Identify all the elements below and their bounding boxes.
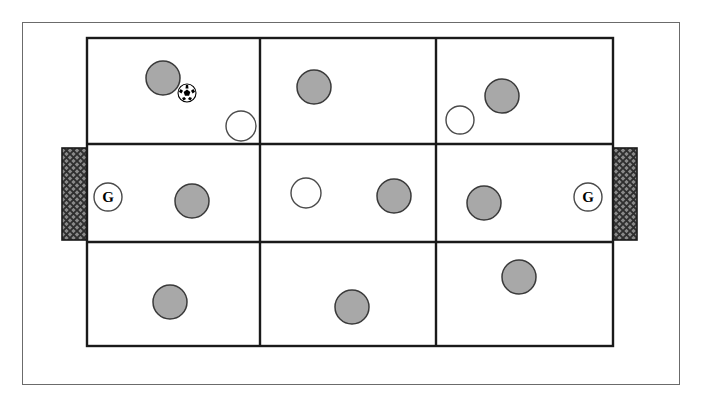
right-goalkeeper-label: G: [582, 189, 594, 205]
gray-player-top-center: [297, 70, 331, 104]
gray-player-middle-center: [377, 179, 411, 213]
right-goal-net: [611, 148, 637, 240]
field-canvas: G G: [0, 0, 706, 408]
soccer-ball-icon: [178, 84, 196, 102]
gray-player-middle-left: [175, 184, 209, 218]
white-player-top-left: [226, 111, 256, 141]
soccer-field-diagram: G G: [0, 0, 706, 408]
left-goal-net: [62, 148, 88, 240]
gray-player-top-left: [146, 61, 180, 95]
gray-player-top-right: [485, 79, 519, 113]
left-goalkeeper: G: [94, 183, 122, 211]
gray-player-bottom-center: [335, 290, 369, 324]
gray-player-bottom-left: [153, 285, 187, 319]
white-player-top-right: [446, 106, 474, 134]
left-goal: [62, 148, 88, 240]
right-goalkeeper: G: [574, 183, 602, 211]
white-player-middle-center: [291, 178, 321, 208]
right-goal: [611, 148, 637, 240]
left-goalkeeper-label: G: [102, 189, 114, 205]
gray-player-bottom-right: [502, 260, 536, 294]
gray-player-middle-right: [467, 186, 501, 220]
